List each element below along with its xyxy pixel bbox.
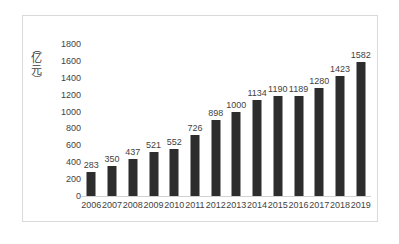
x-tick-label: 2019 bbox=[346, 200, 376, 211]
y-tick-label: 1400 bbox=[41, 73, 81, 82]
y-tick-label: 1200 bbox=[41, 90, 81, 99]
bar bbox=[128, 159, 137, 196]
y-tick-label: 1000 bbox=[41, 107, 81, 116]
bar bbox=[315, 88, 324, 196]
bar-slot: 552 bbox=[163, 44, 185, 196]
y-axis-title-open-paren: （ bbox=[33, 40, 39, 58]
bar-value-label: 552 bbox=[167, 138, 182, 147]
bar-value-label: 1000 bbox=[226, 101, 246, 110]
bar-value-label: 1423 bbox=[330, 65, 350, 74]
y-tick-label: 1600 bbox=[41, 56, 81, 65]
bar bbox=[356, 62, 365, 196]
y-tick-label: 800 bbox=[41, 124, 81, 133]
bar-slot: 521 bbox=[143, 44, 165, 196]
y-tick-label: 200 bbox=[41, 175, 81, 184]
bar-value-label: 898 bbox=[208, 109, 223, 118]
bar-value-label: 350 bbox=[105, 155, 120, 164]
bar-slot: 1189 bbox=[288, 44, 310, 196]
bar-value-label: 726 bbox=[187, 124, 202, 133]
bar-value-label: 1190 bbox=[268, 85, 287, 94]
bar bbox=[253, 100, 262, 196]
bar-slot: 1000 bbox=[225, 44, 247, 196]
x-axis-tick-labels: 2006200720082009201020112012201320142015… bbox=[81, 200, 371, 216]
y-tick-label: 400 bbox=[41, 158, 81, 167]
bar-slot: 1190 bbox=[267, 44, 289, 196]
plot-area: 2833504375215527268981000113411901189128… bbox=[81, 44, 371, 196]
bar bbox=[170, 149, 179, 196]
bar-value-label: 1189 bbox=[289, 85, 308, 94]
y-tick-label: 1800 bbox=[41, 40, 81, 49]
bar bbox=[87, 172, 96, 196]
bar-slot: 1280 bbox=[308, 44, 330, 196]
bar-slot: 437 bbox=[122, 44, 144, 196]
bar bbox=[232, 112, 241, 196]
y-tick-label: 0 bbox=[41, 192, 81, 201]
bar bbox=[149, 152, 158, 196]
bar bbox=[190, 135, 199, 196]
bar-value-label: 283 bbox=[84, 161, 99, 170]
x-axis-line bbox=[81, 196, 371, 197]
bar-chart-figure: （ 亿 元 ） 02004006008001000120014001600180… bbox=[22, 15, 378, 222]
bar bbox=[294, 96, 303, 196]
bar-value-label: 437 bbox=[125, 148, 140, 157]
bar-value-label: 1582 bbox=[351, 51, 371, 60]
bar-slot: 350 bbox=[101, 44, 123, 196]
bar bbox=[108, 166, 117, 196]
bar-value-label: 1280 bbox=[309, 77, 329, 86]
y-axis-tick-labels: 020040060080010001200140016001800 bbox=[41, 44, 81, 196]
bar bbox=[335, 76, 344, 196]
bar-slot: 726 bbox=[184, 44, 206, 196]
bar-value-label: 1134 bbox=[247, 89, 266, 98]
bar-value-label: 521 bbox=[146, 141, 161, 150]
bar-slot: 898 bbox=[205, 44, 227, 196]
bar-slot: 1423 bbox=[329, 44, 351, 196]
bar bbox=[211, 120, 220, 196]
bar-slot: 1582 bbox=[350, 44, 372, 196]
y-tick-label: 600 bbox=[41, 141, 81, 150]
bar-slot: 1134 bbox=[246, 44, 268, 196]
bar bbox=[273, 96, 282, 196]
y-axis-title-close-paren: ） bbox=[33, 70, 39, 88]
bar-slot: 283 bbox=[80, 44, 102, 196]
